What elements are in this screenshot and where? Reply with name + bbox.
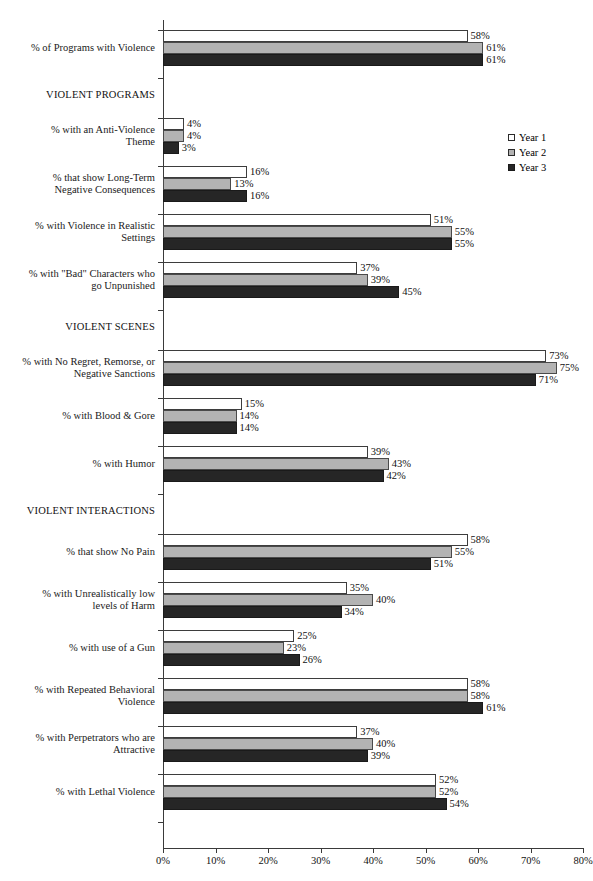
bar-y3 (163, 750, 368, 762)
y-axis-tick (158, 310, 163, 311)
bar-y1 (163, 534, 468, 546)
bar-value-label: 39% (368, 446, 390, 458)
bar-y2 (163, 274, 368, 286)
y-axis-tick (158, 214, 163, 215)
legend-swatch-icon (508, 164, 515, 171)
bar-y1 (163, 262, 357, 274)
bar-value-label: 23% (284, 642, 306, 654)
bar-y3 (163, 286, 399, 298)
bar-value-label: 75% (557, 362, 579, 374)
bar-value-label: 51% (431, 558, 453, 570)
x-axis-tick-label: 40% (363, 855, 382, 866)
bar-y1 (163, 350, 546, 362)
bar-value-label: 40% (373, 594, 395, 606)
bar-y3 (163, 422, 237, 434)
category-label: % that show No Pain (5, 546, 155, 559)
category-label-line: % with Perpetrators who are (5, 732, 155, 745)
x-axis-tick (163, 848, 164, 853)
y-axis-tick (158, 262, 163, 263)
y-axis-tick (158, 118, 163, 119)
category-label: % with Violence in RealisticSettings (5, 220, 155, 245)
y-axis-tick (158, 534, 163, 535)
y-axis-tick (158, 446, 163, 447)
legend-swatch-icon (508, 149, 515, 156)
violence-chart: 58%61%61%4%4%3%16%13%16%51%55%55%37%39%4… (0, 0, 593, 881)
section-header: VIOLENT PROGRAMS (3, 88, 155, 101)
x-axis-tick (478, 848, 479, 853)
x-axis-tick (321, 848, 322, 853)
bar-value-label: 34% (342, 606, 364, 618)
bar-value-label: 4% (184, 130, 201, 142)
y-axis-tick (158, 678, 163, 679)
y-axis-tick (158, 166, 163, 167)
legend-label: Year 1 (519, 130, 546, 145)
y-axis-tick (158, 630, 163, 631)
category-label-line: % with Lethal Violence (5, 786, 155, 799)
category-label-line: % with Repeated Behavioral (5, 684, 155, 697)
bar-y1 (163, 630, 294, 642)
category-label-line: Attractive (5, 744, 155, 757)
bar-value-label: 61% (483, 42, 505, 54)
category-label-line: % with Blood & Gore (5, 410, 155, 423)
bar-y1 (163, 398, 242, 410)
category-label: % with "Bad" Characters whogo Unpunished (5, 268, 155, 293)
x-axis-tick-label: 50% (416, 855, 435, 866)
category-label: % of Programs with Violence (5, 42, 155, 55)
bar-y1 (163, 166, 247, 178)
bar-y2 (163, 362, 557, 374)
x-axis-tick-label: 20% (258, 855, 277, 866)
bar-y3 (163, 470, 384, 482)
legend-item-y1[interactable]: Year 1 (508, 130, 546, 145)
bar-value-label: 58% (468, 678, 490, 690)
legend-item-y3[interactable]: Year 3 (508, 160, 546, 175)
category-label: % with Lethal Violence (5, 786, 155, 799)
bar-y1 (163, 582, 347, 594)
x-axis-tick (268, 848, 269, 853)
category-label: % with Repeated BehavioralViolence (5, 684, 155, 709)
category-label: % with No Regret, Remorse, orNegative Sa… (5, 356, 155, 381)
bar-value-label: 37% (357, 262, 379, 274)
x-axis-tick-label: 30% (311, 855, 330, 866)
bar-value-label: 58% (468, 690, 490, 702)
bar-y2 (163, 546, 452, 558)
bar-y3 (163, 190, 247, 202)
bar-y3 (163, 142, 179, 154)
category-label-line: % with Humor (5, 458, 155, 471)
bar-value-label: 52% (436, 786, 458, 798)
bar-value-label: 15% (242, 398, 264, 410)
category-label-line: % with Violence in Realistic (5, 220, 155, 233)
y-axis-tick (158, 582, 163, 583)
category-label: % with Perpetrators who areAttractive (5, 732, 155, 757)
category-label-line: Negative Consequences (5, 184, 155, 197)
x-axis-tick-label: 80% (573, 855, 592, 866)
bar-y1 (163, 678, 468, 690)
bar-y3 (163, 606, 342, 618)
bar-value-label: 58% (468, 30, 490, 42)
bar-value-label: 54% (447, 798, 469, 810)
bar-y3 (163, 702, 483, 714)
bar-y2 (163, 594, 373, 606)
bar-y3 (163, 798, 447, 810)
bar-value-label: 39% (368, 274, 390, 286)
bar-value-label: 40% (373, 738, 395, 750)
bar-value-label: 61% (483, 702, 505, 714)
bar-y1 (163, 774, 436, 786)
bar-y2 (163, 738, 373, 750)
bar-y1 (163, 30, 468, 42)
legend-item-y2[interactable]: Year 2 (508, 145, 546, 160)
bar-value-label: 55% (452, 226, 474, 238)
y-axis-tick (158, 350, 163, 351)
bar-value-label: 14% (237, 410, 259, 422)
category-label-line: levels of Harm (5, 600, 155, 613)
bar-y2 (163, 226, 452, 238)
bar-y3 (163, 654, 300, 666)
category-label-line: % with use of a Gun (5, 642, 155, 655)
category-label-line: Settings (5, 232, 155, 245)
bar-value-label: 3% (179, 142, 196, 154)
section-header-line: VIOLENT SCENES (3, 320, 155, 333)
bar-value-label: 43% (389, 458, 411, 470)
legend-label: Year 2 (519, 145, 546, 160)
bar-y2 (163, 458, 389, 470)
category-label-line: % with Unrealistically low (5, 588, 155, 601)
bar-y1 (163, 118, 184, 130)
